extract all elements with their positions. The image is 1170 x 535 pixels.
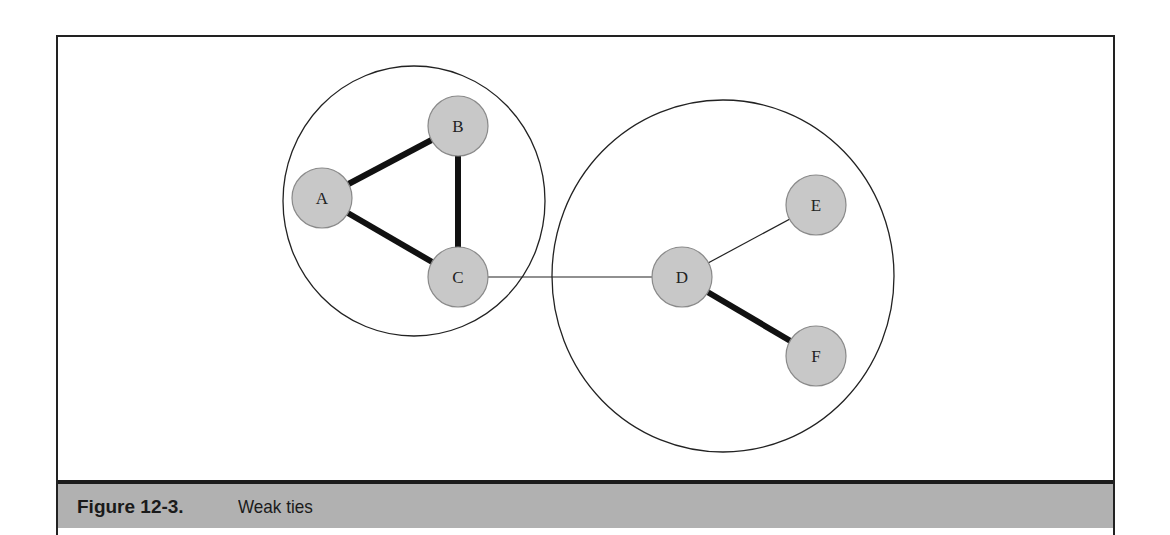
node-label-e: E [811,196,821,215]
figure-number: Figure 12-3. [77,496,184,518]
figure-title: Weak ties [238,496,313,518]
weak-ties-diagram: A B C D E F [0,0,1170,480]
node-c: C [428,247,488,307]
figure-caption-bar: Figure 12-3. Weak ties [58,480,1113,528]
node-e: E [786,175,846,235]
node-label-f: F [811,347,820,366]
node-label-d: D [676,268,688,287]
node-d: D [652,247,712,307]
node-a: A [292,168,352,228]
node-f: F [786,326,846,386]
node-label-b: B [452,117,463,136]
node-label-c: C [452,268,463,287]
node-label-a: A [316,189,329,208]
cluster-right-circle [552,100,894,452]
node-b: B [428,96,488,156]
